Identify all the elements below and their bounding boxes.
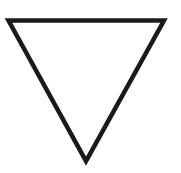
triangle-outline <box>9 21 165 162</box>
figure-canvas <box>0 0 181 173</box>
inverted-triangle-icon <box>0 0 181 173</box>
